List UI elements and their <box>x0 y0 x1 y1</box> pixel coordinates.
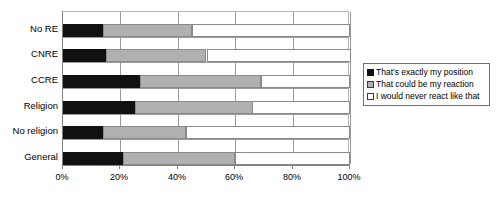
bar-segment <box>106 49 206 62</box>
legend-item-label: That could be my reaction <box>376 80 474 89</box>
bar-segment <box>63 126 103 139</box>
bar-segment <box>186 126 350 139</box>
x-axis-tick <box>177 165 178 169</box>
legend-item-label: I would never react like that <box>376 92 479 101</box>
x-axis-tick-label: 20% <box>99 172 139 182</box>
x-axis-tick <box>119 165 120 169</box>
chart-legend: That's exactly my position That could be… <box>363 63 490 106</box>
bar-segment <box>103 126 186 139</box>
legend-item: That could be my reaction <box>367 79 486 90</box>
bar-segment <box>192 24 350 37</box>
bar-segment <box>63 24 103 37</box>
bar-segment <box>235 152 350 165</box>
legend-item: That's exactly my position <box>367 67 486 78</box>
bar-cnre <box>63 49 350 62</box>
bar-segment <box>103 24 192 37</box>
bar-general <box>63 152 350 165</box>
legend-item-label: That's exactly my position <box>376 68 473 77</box>
category-label-religion: Religion <box>0 101 58 111</box>
x-axis-tick <box>292 165 293 169</box>
bar-segment <box>140 75 261 88</box>
bar-segment <box>63 101 135 114</box>
bar-segment <box>261 75 350 88</box>
category-label-general: General <box>0 152 58 162</box>
x-axis-tick <box>349 165 350 169</box>
bar-no-religion <box>63 126 350 139</box>
legend-swatch-gray-square-icon <box>367 81 374 88</box>
category-label-ccre: CCRE <box>0 75 58 85</box>
bar-segment <box>63 152 123 165</box>
x-axis-tick-label: 80% <box>272 172 312 182</box>
x-axis-tick-label: 100% <box>329 172 369 182</box>
stacked-bar-chart: No RECNRECCREReligionNo religionGeneral … <box>0 0 498 205</box>
category-axis-labels: No RECNRECCREReligionNo religionGeneral <box>0 11 58 165</box>
legend-item: I would never react like that <box>367 91 486 102</box>
gridline <box>350 12 351 164</box>
bar-segment <box>63 49 106 62</box>
bar-no-re <box>63 24 350 37</box>
bar-segment <box>135 101 253 114</box>
category-label-cnre: CNRE <box>0 49 58 59</box>
x-axis-tick <box>62 165 63 169</box>
plot-area <box>62 11 349 165</box>
x-axis-tick-label: 0% <box>42 172 82 182</box>
bar-religion <box>63 101 350 114</box>
legend-swatch-black-square-icon <box>367 69 374 76</box>
bar-segment <box>123 152 235 165</box>
x-axis-line <box>62 165 350 166</box>
legend-swatch-white-square-icon <box>367 93 374 100</box>
bar-ccre <box>63 75 350 88</box>
x-axis-tick <box>234 165 235 169</box>
x-axis-tick-label: 40% <box>157 172 197 182</box>
bar-segment <box>63 75 140 88</box>
x-axis-tick-label: 60% <box>214 172 254 182</box>
category-label-no-religion: No religion <box>0 126 58 136</box>
bar-segment <box>207 49 351 62</box>
bar-segment <box>252 101 350 114</box>
category-label-no-re: No RE <box>0 24 58 34</box>
